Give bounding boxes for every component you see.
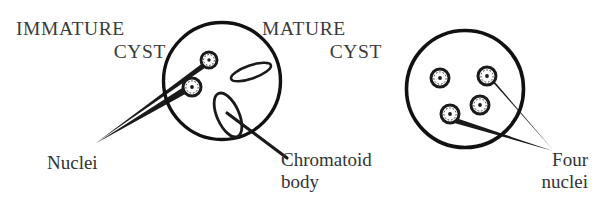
mature-cyst-wall	[407, 31, 524, 148]
immature-cyst-title: IMMATURECYST	[16, 18, 166, 63]
mature-cyst-title-line1: MATURE	[262, 18, 346, 39]
mature-nucleus-1	[431, 69, 449, 87]
mature-cyst-title: MATURECYST	[262, 18, 382, 63]
immature-nucleus-1	[201, 52, 217, 68]
mature-nucleus-3	[471, 96, 489, 114]
four-nuclei-label: Fournuclei	[492, 149, 588, 193]
nuclei-pointer-upper	[97, 57, 214, 143]
nuclei-pointer-lower	[96, 83, 194, 143]
immature-cyst-title-line1: IMMATURE	[16, 18, 125, 39]
immature-nucleus-2	[183, 78, 201, 96]
mature-nucleus-2	[478, 67, 496, 85]
mature-nucleus-4	[441, 105, 459, 123]
four-nuclei-label-line1: Four	[552, 149, 588, 170]
chromatoid-body-label: Chromatoidbody	[281, 149, 416, 193]
four-nuclei-pointer-upper	[490, 79, 554, 151]
nuclei-label: Nuclei	[47, 152, 98, 174]
mature-cyst-group	[407, 31, 554, 152]
chromatoid-body-label-line1: Chromatoid	[281, 149, 372, 170]
chromatoid-body-label-line2: body	[281, 171, 319, 192]
four-nuclei-label-line2: nuclei	[542, 171, 588, 192]
mature-cyst-title-line2: CYST	[262, 41, 382, 64]
figure-canvas: IMMATURECYST MATURECYST Nuclei Chromatoi…	[0, 0, 600, 215]
immature-cyst-title-line2: CYST	[16, 41, 166, 64]
